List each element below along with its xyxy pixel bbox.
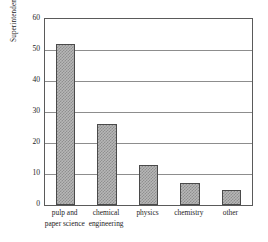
x-axis-tick-label: pulp andpaper science <box>44 208 85 229</box>
bar <box>180 183 199 205</box>
y-axis-tick-label: 40 <box>20 76 40 84</box>
y-axis-tick-labels: 0102030405060 <box>20 0 40 242</box>
y-axis-title: Superintendents <box>8 0 20 68</box>
y-axis-tick-label: 10 <box>20 169 40 177</box>
x-axis-tick-labels: pulp andpaper sciencechemicalengineering… <box>44 208 253 240</box>
bar <box>222 190 241 206</box>
x-axis-tick-label: chemistry <box>168 208 209 219</box>
x-axis-tick-label: other <box>210 208 251 219</box>
x-axis-tick-label: physics <box>127 208 168 219</box>
y-axis-tick-label: 0 <box>20 200 40 208</box>
y-axis-tick-label: 60 <box>20 14 40 22</box>
plot-area <box>44 18 253 206</box>
bar <box>56 44 75 205</box>
bars-group <box>45 19 252 205</box>
bar <box>139 165 158 205</box>
x-axis-tick-label: chemicalengineering <box>85 208 126 229</box>
bar <box>97 124 116 205</box>
y-axis-tick-label: 50 <box>20 45 40 53</box>
y-axis-tick-label: 30 <box>20 107 40 115</box>
bar-chart-figure: Superintendents 0102030405060 pulp andpa… <box>0 0 268 242</box>
y-axis-tick-label: 20 <box>20 138 40 146</box>
